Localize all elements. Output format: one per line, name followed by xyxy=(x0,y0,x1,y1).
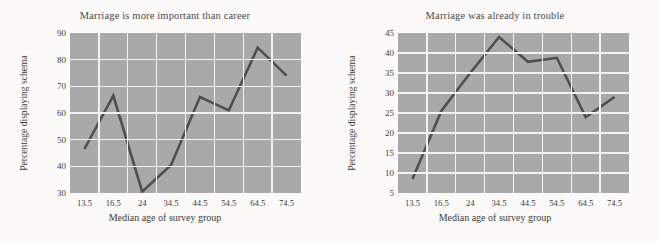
y-tick-label: 10 xyxy=(385,168,394,178)
plot-area-left xyxy=(70,33,301,193)
x-tick-label: 24 xyxy=(138,198,147,208)
x-tick-label: 44.5 xyxy=(192,198,207,208)
x-axis-ticks-left: 13.516.52434.544.554.564.574.5 xyxy=(70,198,301,212)
x-tick-label: 13.5 xyxy=(77,198,92,208)
x-tick-label: 54.5 xyxy=(549,198,564,208)
gridline-vertical xyxy=(542,33,543,193)
gridline-vertical xyxy=(426,33,427,193)
gridline-vertical xyxy=(243,33,244,193)
x-axis-label-right: Median age of survey group xyxy=(330,212,660,223)
x-tick-label: 74.5 xyxy=(607,198,622,208)
y-axis-label-right: Percentage displaying schema xyxy=(346,33,360,193)
x-axis-ticks-right: 13.516.52434.544.554.564.574.5 xyxy=(398,198,629,212)
x-tick-label: 44.5 xyxy=(520,198,535,208)
figure-container: Marriage is more important than career 9… xyxy=(0,0,660,241)
x-tick-label: 24 xyxy=(466,198,475,208)
plot-area-right xyxy=(398,33,629,193)
chart-title-right: Marriage was already in trouble xyxy=(330,10,660,21)
y-tick-label: 90 xyxy=(57,28,66,38)
gridline-vertical xyxy=(571,33,572,193)
y-tick-label: 30 xyxy=(385,88,394,98)
y-tick-label: 40 xyxy=(385,48,394,58)
gridline-vertical xyxy=(271,33,272,193)
y-tick-label: 50 xyxy=(57,135,66,145)
y-tick-label: 60 xyxy=(57,108,66,118)
y-axis-ticks-left: 90807060504030 xyxy=(40,33,66,193)
plot-wrap-left xyxy=(70,33,301,193)
x-tick-label: 74.5 xyxy=(279,198,294,208)
plot-wrap-right xyxy=(398,33,629,193)
x-tick-label: 34.5 xyxy=(492,198,507,208)
x-tick-label: 34.5 xyxy=(164,198,179,208)
y-tick-label: 20 xyxy=(385,128,394,138)
y-tick-label: 25 xyxy=(385,108,394,118)
x-tick-label: 64.5 xyxy=(578,198,593,208)
y-tick-label: 70 xyxy=(57,81,66,91)
x-tick-label: 64.5 xyxy=(250,198,265,208)
y-tick-label: 30 xyxy=(57,188,66,198)
gridline-vertical xyxy=(484,33,485,193)
y-tick-label: 80 xyxy=(57,55,66,65)
x-tick-label: 16.5 xyxy=(106,198,121,208)
gridline-vertical xyxy=(185,33,186,193)
x-tick-label: 13.5 xyxy=(405,198,420,208)
gridline-vertical xyxy=(127,33,128,193)
gridline-vertical xyxy=(156,33,157,193)
chart-panel-right: Marriage was already in trouble 45403530… xyxy=(330,0,660,241)
y-tick-label: 35 xyxy=(385,68,394,78)
y-tick-label: 45 xyxy=(385,28,394,38)
gridline-vertical xyxy=(98,33,99,193)
gridline-vertical xyxy=(214,33,215,193)
x-tick-label: 54.5 xyxy=(221,198,236,208)
gridline-vertical xyxy=(455,33,456,193)
y-tick-label: 15 xyxy=(385,148,394,158)
y-tick-label: 5 xyxy=(390,188,395,198)
gridline-vertical xyxy=(513,33,514,193)
x-axis-label-left: Median age of survey group xyxy=(0,212,330,223)
gridline-vertical xyxy=(599,33,600,193)
y-axis-ticks-right: 45403530252015105 xyxy=(370,33,394,193)
chart-title-left: Marriage is more important than career xyxy=(0,10,330,21)
x-tick-label: 16.5 xyxy=(434,198,449,208)
y-tick-label: 40 xyxy=(57,161,66,171)
y-axis-label-left: Percentage displaying schema xyxy=(18,33,32,193)
chart-panel-left: Marriage is more important than career 9… xyxy=(0,0,330,241)
